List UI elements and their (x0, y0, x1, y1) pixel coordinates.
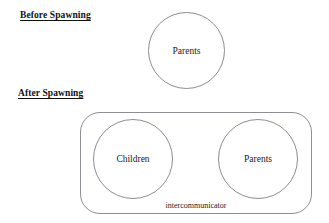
section-heading-before-spawning: Before Spawning (20, 10, 91, 21)
circle-parents-after (218, 119, 298, 199)
circle-children-after (93, 119, 173, 199)
diagram-canvas: Before Spawning Parents After Spawning C… (0, 0, 329, 223)
circle-parents-before (148, 12, 225, 89)
intercommunicator-label: intercommunicator (80, 198, 312, 212)
section-heading-after-spawning: After Spawning (18, 88, 83, 99)
